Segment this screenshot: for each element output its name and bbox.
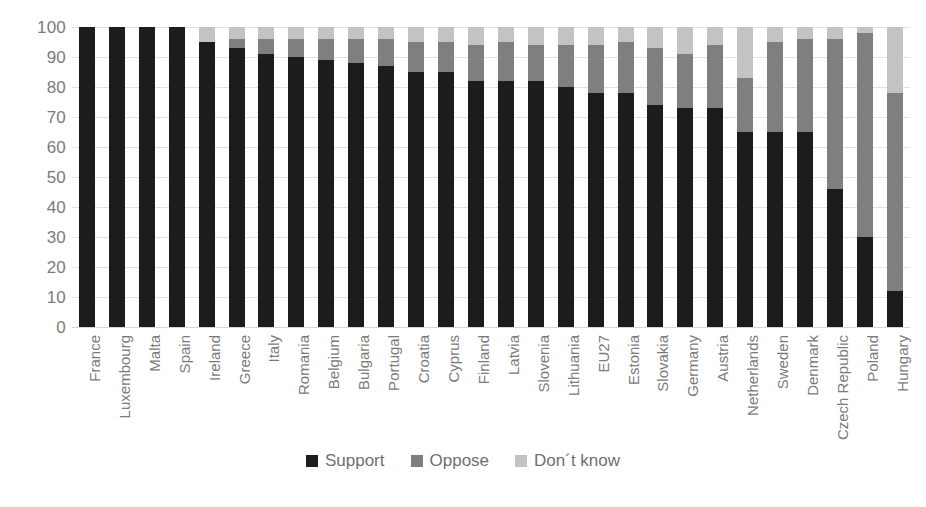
- bar-segment-oppose[interactable]: [767, 42, 783, 132]
- bar-segment-oppose[interactable]: [677, 54, 693, 108]
- stacked-bar[interactable]: [528, 27, 544, 327]
- bar-segment-support[interactable]: [288, 57, 304, 327]
- bar-segment-support[interactable]: [169, 27, 185, 327]
- bar-segment-oppose[interactable]: [408, 42, 424, 72]
- stacked-bar[interactable]: [498, 27, 514, 327]
- stacked-bar[interactable]: [707, 27, 723, 327]
- bar-segment-don-t-know[interactable]: [288, 27, 304, 39]
- bar-segment-support[interactable]: [558, 87, 574, 327]
- bar-segment-oppose[interactable]: [468, 45, 484, 81]
- bar-segment-don-t-know[interactable]: [618, 27, 634, 42]
- stacked-bar[interactable]: [737, 27, 753, 327]
- legend-item[interactable]: Support: [306, 452, 385, 469]
- bar-segment-don-t-know[interactable]: [827, 27, 843, 39]
- stacked-bar[interactable]: [677, 27, 693, 327]
- bar-segment-support[interactable]: [737, 132, 753, 327]
- bar-segment-support[interactable]: [528, 81, 544, 327]
- stacked-bar[interactable]: [258, 27, 274, 327]
- bar-segment-don-t-know[interactable]: [767, 27, 783, 42]
- bar-segment-oppose[interactable]: [618, 42, 634, 93]
- bar-segment-support[interactable]: [199, 42, 215, 327]
- stacked-bar[interactable]: [109, 27, 125, 327]
- bar-segment-don-t-know[interactable]: [887, 27, 903, 93]
- bar-segment-don-t-know[interactable]: [588, 27, 604, 45]
- stacked-bar[interactable]: [558, 27, 574, 327]
- stacked-bar[interactable]: [318, 27, 334, 327]
- bar-segment-don-t-know[interactable]: [707, 27, 723, 45]
- bar-segment-oppose[interactable]: [558, 45, 574, 87]
- bar-segment-support[interactable]: [79, 27, 95, 327]
- bar-segment-oppose[interactable]: [528, 45, 544, 81]
- bar-segment-support[interactable]: [677, 108, 693, 327]
- stacked-bar[interactable]: [139, 27, 155, 327]
- bar-segment-oppose[interactable]: [707, 45, 723, 108]
- bar-segment-oppose[interactable]: [857, 33, 873, 237]
- bar-segment-don-t-know[interactable]: [318, 27, 334, 39]
- stacked-bar[interactable]: [767, 27, 783, 327]
- stacked-bar[interactable]: [378, 27, 394, 327]
- bar-segment-don-t-know[interactable]: [348, 27, 364, 39]
- bar-segment-oppose[interactable]: [827, 39, 843, 189]
- stacked-bar[interactable]: [438, 27, 454, 327]
- bar-segment-support[interactable]: [378, 66, 394, 327]
- bar-segment-don-t-know[interactable]: [558, 27, 574, 45]
- bar-segment-support[interactable]: [857, 237, 873, 327]
- legend-item[interactable]: Oppose: [411, 452, 490, 469]
- bar-segment-support[interactable]: [258, 54, 274, 327]
- bar-segment-don-t-know[interactable]: [737, 27, 753, 78]
- legend-item[interactable]: Don´t know: [515, 452, 620, 469]
- bar-segment-support[interactable]: [797, 132, 813, 327]
- bar-segment-support[interactable]: [707, 108, 723, 327]
- bar-segment-don-t-know[interactable]: [647, 27, 663, 48]
- bar-segment-support[interactable]: [468, 81, 484, 327]
- stacked-bar[interactable]: [408, 27, 424, 327]
- bar-segment-oppose[interactable]: [737, 78, 753, 132]
- stacked-bar[interactable]: [827, 27, 843, 327]
- bar-segment-support[interactable]: [647, 105, 663, 327]
- bar-segment-don-t-know[interactable]: [378, 27, 394, 39]
- bar-segment-don-t-know[interactable]: [408, 27, 424, 42]
- stacked-bar[interactable]: [79, 27, 95, 327]
- stacked-bar[interactable]: [288, 27, 304, 327]
- stacked-bar[interactable]: [468, 27, 484, 327]
- bar-segment-don-t-know[interactable]: [258, 27, 274, 39]
- bar-segment-don-t-know[interactable]: [528, 27, 544, 45]
- stacked-bar[interactable]: [348, 27, 364, 327]
- stacked-bar[interactable]: [887, 27, 903, 327]
- stacked-bar[interactable]: [797, 27, 813, 327]
- bar-segment-support[interactable]: [618, 93, 634, 327]
- bar-segment-support[interactable]: [498, 81, 514, 327]
- bar-segment-don-t-know[interactable]: [229, 27, 245, 39]
- bar-segment-oppose[interactable]: [288, 39, 304, 57]
- bar-segment-support[interactable]: [887, 291, 903, 327]
- bar-segment-oppose[interactable]: [887, 93, 903, 291]
- bar-segment-oppose[interactable]: [797, 39, 813, 132]
- bar-segment-don-t-know[interactable]: [199, 27, 215, 42]
- bar-segment-oppose[interactable]: [258, 39, 274, 54]
- bar-segment-don-t-know[interactable]: [677, 27, 693, 54]
- bar-segment-support[interactable]: [318, 60, 334, 327]
- bar-segment-oppose[interactable]: [229, 39, 245, 48]
- bar-segment-don-t-know[interactable]: [438, 27, 454, 42]
- bar-segment-support[interactable]: [827, 189, 843, 327]
- stacked-bar[interactable]: [857, 27, 873, 327]
- bar-segment-oppose[interactable]: [438, 42, 454, 72]
- stacked-bar[interactable]: [199, 27, 215, 327]
- stacked-bar[interactable]: [229, 27, 245, 327]
- bar-segment-support[interactable]: [139, 27, 155, 327]
- bar-segment-support[interactable]: [109, 27, 125, 327]
- bar-segment-don-t-know[interactable]: [468, 27, 484, 45]
- bar-segment-support[interactable]: [767, 132, 783, 327]
- bar-segment-don-t-know[interactable]: [797, 27, 813, 39]
- bar-segment-oppose[interactable]: [647, 48, 663, 105]
- stacked-bar[interactable]: [618, 27, 634, 327]
- bar-segment-don-t-know[interactable]: [498, 27, 514, 42]
- stacked-bar[interactable]: [588, 27, 604, 327]
- bar-segment-support[interactable]: [229, 48, 245, 327]
- bar-segment-support[interactable]: [438, 72, 454, 327]
- stacked-bar[interactable]: [647, 27, 663, 327]
- stacked-bar[interactable]: [169, 27, 185, 327]
- bar-segment-support[interactable]: [408, 72, 424, 327]
- bar-segment-oppose[interactable]: [588, 45, 604, 93]
- bar-segment-support[interactable]: [588, 93, 604, 327]
